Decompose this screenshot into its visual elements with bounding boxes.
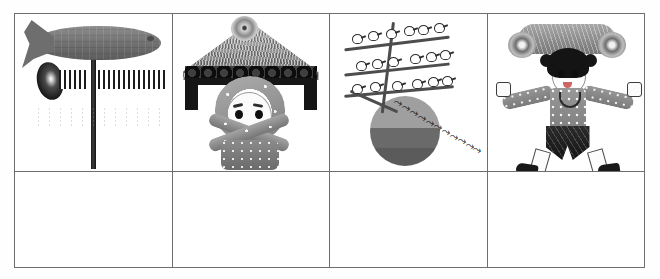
- carp-eye-icon: [147, 36, 154, 41]
- thatched-roof-child-illustration: [173, 14, 330, 171]
- perched-bird: [370, 82, 381, 92]
- answer-area[interactable]: [15, 172, 172, 267]
- paper-streamers: [35, 106, 167, 126]
- birds-branches-sun-illustration: [330, 14, 487, 171]
- cell-birds-branches-sun[interactable]: [330, 14, 488, 172]
- answer-area[interactable]: [173, 172, 330, 267]
- answer-cell-2[interactable]: [172, 172, 330, 268]
- perched-bird: [356, 61, 367, 71]
- roof-knob-icon: [231, 16, 258, 41]
- flying-bird: [472, 144, 484, 155]
- child-headdress-illustration: [488, 14, 645, 171]
- worksheet-page: [0, 0, 660, 279]
- eye-right-icon: [255, 110, 263, 119]
- perched-bird: [352, 34, 363, 44]
- cell-thatched-roof-child[interactable]: [172, 14, 330, 172]
- perched-bird: [404, 26, 415, 36]
- crown-pom-right: [598, 32, 626, 58]
- crown-pom-left: [508, 32, 536, 58]
- eye-left-icon: [558, 70, 564, 77]
- answer-area[interactable]: [488, 172, 645, 267]
- carp-streamer-illustration: [15, 14, 172, 171]
- post-left: [185, 82, 198, 110]
- perched-bird: [412, 79, 423, 89]
- body-panel: [221, 140, 279, 170]
- perched-bird: [426, 52, 437, 62]
- perched-bird: [442, 76, 453, 86]
- post-right: [304, 82, 317, 110]
- striped-bar-right: [98, 70, 166, 89]
- perched-bird: [428, 77, 439, 87]
- perched-bird: [392, 81, 403, 91]
- illustration-row: [15, 14, 645, 172]
- picture-grid: [14, 13, 645, 268]
- striped-bar-left: [59, 70, 89, 89]
- hand-right: [627, 82, 642, 97]
- perched-bird: [388, 57, 399, 67]
- cell-child-headdress[interactable]: [487, 14, 645, 172]
- answer-cell-4[interactable]: [487, 172, 645, 268]
- perched-bird: [440, 50, 451, 60]
- perched-bird: [352, 84, 363, 94]
- dark-shorts: [546, 126, 590, 160]
- eye-right-icon: [572, 70, 578, 77]
- perched-bird: [368, 31, 379, 41]
- answer-cell-1[interactable]: [15, 172, 173, 268]
- perched-bird: [410, 54, 421, 64]
- perched-bird: [418, 25, 429, 35]
- perched-bird: [372, 59, 383, 69]
- answer-row: [15, 172, 645, 268]
- cell-carp-streamer[interactable]: [15, 14, 173, 172]
- hand-left: [496, 82, 511, 97]
- answer-area[interactable]: [330, 172, 487, 267]
- eye-left-icon: [235, 110, 243, 119]
- perched-bird: [434, 23, 445, 33]
- answer-cell-3[interactable]: [330, 172, 488, 268]
- hair: [547, 48, 589, 78]
- perched-bird: [386, 29, 397, 39]
